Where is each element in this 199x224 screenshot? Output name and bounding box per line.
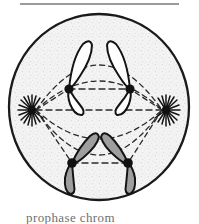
- centromere-lower-left: [67, 158, 77, 168]
- centrosome-right: [162, 106, 170, 114]
- centromere-upper-right: [125, 84, 134, 93]
- centromere-upper-left: [64, 84, 73, 93]
- centromere-lower-right: [123, 158, 133, 168]
- cell-division-diagram: [0, 0, 199, 224]
- centrosome-left: [28, 106, 36, 114]
- caption-strip: prophase chrom: [0, 211, 199, 224]
- figure-root: prophase chrom: [0, 0, 199, 224]
- figure-caption: prophase chrom: [26, 211, 186, 224]
